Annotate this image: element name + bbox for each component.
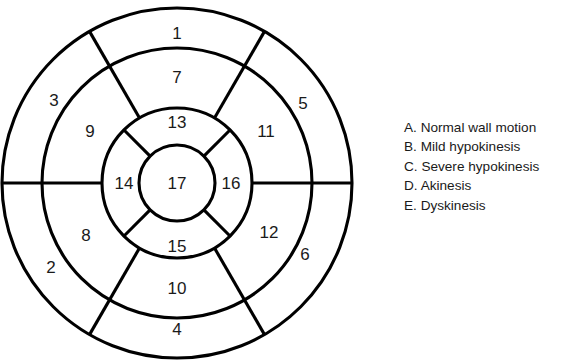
segment-label-6: 6: [300, 245, 309, 264]
legend-item-a: A. Normal wall motion: [404, 118, 580, 137]
segment-label-2: 2: [46, 258, 55, 277]
legend-text-d: Akinesis: [421, 178, 472, 193]
legend-text-e: Dyskinesis: [421, 198, 486, 213]
segment-label-16: 16: [222, 174, 241, 193]
segment-label-11: 11: [257, 122, 275, 141]
segment-label-4: 4: [172, 320, 181, 339]
segment-label-10: 10: [168, 279, 187, 298]
legend: A. Normal wall motion B. Mild hypokinesi…: [404, 118, 580, 215]
legend-key-c: C.: [404, 159, 418, 174]
legend-item-d: D. Akinesis: [404, 176, 580, 195]
segment-label-14: 14: [115, 174, 134, 193]
segment-label-7: 7: [172, 68, 181, 87]
segment-label-15: 15: [168, 237, 187, 256]
legend-text-c: Severe hypokinesis: [421, 159, 539, 174]
legend-text-b: Mild hypokinesis: [421, 139, 521, 154]
bullseye-diagram: 1 2 3 4 5 6 7 8 9 10 11 12 13 14 15 16 1…: [0, 0, 360, 361]
legend-key-e: E.: [404, 198, 417, 213]
legend-item-b: B. Mild hypokinesis: [404, 137, 580, 156]
segment-label-5: 5: [298, 94, 307, 113]
legend-key-d: D.: [404, 178, 418, 193]
bullseye-figure: 1 2 3 4 5 6 7 8 9 10 11 12 13 14 15 16 1…: [0, 0, 580, 361]
segment-label-1: 1: [172, 24, 181, 43]
segment-label-3: 3: [49, 91, 58, 110]
segment-label-8: 8: [81, 226, 90, 245]
segment-label-12: 12: [260, 223, 279, 242]
legend-item-c: C. Severe hypokinesis: [404, 157, 580, 176]
legend-key-a: A.: [404, 120, 417, 135]
legend-item-e: E. Dyskinesis: [404, 196, 580, 215]
segment-label-17: 17: [168, 174, 187, 193]
segment-label-9: 9: [85, 122, 94, 141]
segment-label-13: 13: [168, 113, 187, 132]
legend-text-a: Normal wall motion: [421, 120, 537, 135]
legend-key-b: B.: [404, 139, 417, 154]
